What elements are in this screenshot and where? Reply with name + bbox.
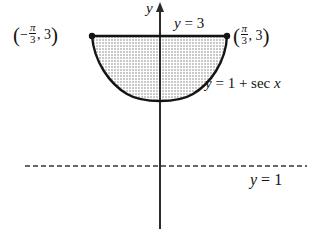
open-paren: ( <box>233 24 240 48</box>
label-y-equals-3: y = 3 <box>174 16 204 31</box>
point-marker-right <box>224 33 230 39</box>
open-paren: ( <box>13 23 20 47</box>
minus-sign: − <box>20 27 28 42</box>
fraction-pi-over-3: π3 <box>29 22 36 46</box>
label-point-left: (−π3, 3) <box>13 22 58 46</box>
fraction-denominator: 3 <box>241 35 248 46</box>
point-marker-left <box>89 33 95 39</box>
y-axis-label: y <box>146 1 153 16</box>
fraction-denominator: 3 <box>29 34 36 45</box>
math-figure: y y = 3 y = 1 y = 1 + sec x (−π3, 3) (π3… <box>0 0 335 229</box>
label-point-right: (π3, 3) <box>233 23 269 47</box>
label-y3-value: 3 <box>197 15 205 31</box>
point-left-y: 3 <box>44 27 51 42</box>
label-curve-equation: y = 1 + sec x <box>205 76 281 91</box>
label-y1-value: 1 <box>274 171 282 188</box>
fraction-pi-over-3: π3 <box>241 23 248 47</box>
close-paren: ) <box>51 23 58 47</box>
close-paren: ) <box>262 24 269 48</box>
comma: , <box>37 27 44 42</box>
label-y-equals-1: y = 1 <box>250 172 282 188</box>
y-axis-arrow-icon <box>156 2 164 12</box>
